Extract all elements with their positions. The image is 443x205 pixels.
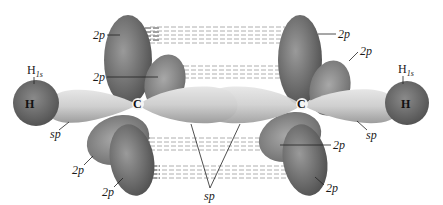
label-sp-left: sp bbox=[50, 122, 69, 141]
svg-text:2p: 2p bbox=[333, 138, 345, 152]
pi-overlap-top-lower bbox=[178, 66, 285, 78]
atom-h-left: H bbox=[25, 97, 35, 111]
label-sp-right: sp bbox=[357, 121, 377, 142]
svg-text:2p: 2p bbox=[360, 44, 372, 58]
label-2p-bottom-left-upper: 2p bbox=[72, 156, 93, 177]
svg-text:2p: 2p bbox=[72, 163, 84, 177]
svg-text:2p: 2p bbox=[93, 28, 105, 42]
pi-overlap-bottom-lower bbox=[143, 166, 290, 178]
svg-text:H1s: H1s bbox=[398, 62, 414, 78]
label-2p-bottom-left-lower: 2p bbox=[102, 178, 123, 199]
svg-text:sp: sp bbox=[204, 189, 215, 203]
orbital-diagram: H C C H H1s H1s 2p 2p 2p 2p sp sp sp bbox=[0, 0, 443, 205]
atom-c-right: C bbox=[297, 97, 306, 111]
label-sp-center: sp bbox=[191, 124, 240, 203]
label-h1s-right: H1s bbox=[398, 62, 414, 84]
svg-text:sp: sp bbox=[366, 128, 377, 142]
label-2p-top-right-lower: 2p bbox=[349, 44, 372, 61]
svg-text:2p: 2p bbox=[102, 185, 114, 199]
svg-text:sp: sp bbox=[50, 127, 61, 141]
label-2p-top-right-upper: 2p bbox=[318, 27, 350, 41]
svg-text:H1s: H1s bbox=[27, 63, 43, 79]
svg-text:2p: 2p bbox=[326, 181, 338, 195]
h-1s-orbital-left bbox=[13, 80, 59, 126]
atom-h-right: H bbox=[401, 97, 411, 111]
svg-text:2p: 2p bbox=[93, 70, 105, 84]
atom-c-left: C bbox=[133, 97, 142, 111]
svg-text:2p: 2p bbox=[338, 27, 350, 41]
pi-overlap-top-upper bbox=[145, 27, 285, 43]
